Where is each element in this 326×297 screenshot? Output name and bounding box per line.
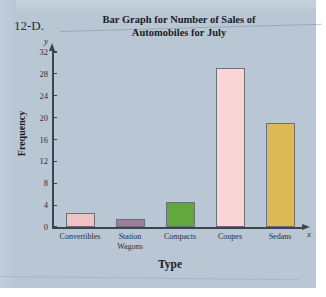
category-label-line: Compacts bbox=[153, 232, 207, 242]
y-tick-mark bbox=[52, 205, 57, 206]
y-tick-label: 24 bbox=[26, 91, 48, 101]
bar bbox=[266, 123, 295, 227]
y-axis-variable-label: y bbox=[44, 36, 48, 46]
y-tick-mark bbox=[52, 51, 57, 52]
category-label-line: Station bbox=[103, 232, 157, 242]
y-tick-label: 8 bbox=[26, 178, 48, 188]
y-axis-title: Frequency bbox=[16, 94, 27, 174]
y-tick-label: 12 bbox=[26, 156, 48, 166]
bar bbox=[116, 219, 145, 227]
category-label: Convertibles bbox=[53, 232, 107, 242]
x-axis-variable-label: x bbox=[307, 229, 311, 239]
category-label-line: Sedans bbox=[253, 232, 307, 242]
y-tick-label: 32 bbox=[26, 47, 48, 57]
y-tick-mark bbox=[52, 139, 57, 140]
category-label: Compacts bbox=[153, 232, 207, 242]
y-tick-label: 0 bbox=[26, 222, 48, 232]
category-label: Sedans bbox=[253, 232, 307, 242]
x-axis-line bbox=[52, 227, 304, 229]
category-label: StationWagons bbox=[103, 232, 157, 251]
bar bbox=[66, 213, 95, 227]
bar bbox=[216, 68, 245, 227]
category-label-line: Convertibles bbox=[53, 232, 107, 242]
y-axis-arrow-icon bbox=[49, 43, 55, 51]
y-tick-label: 16 bbox=[26, 135, 48, 145]
y-tick-mark bbox=[52, 161, 57, 162]
category-label: Coupes bbox=[203, 232, 257, 242]
y-tick-mark bbox=[52, 73, 57, 74]
x-axis-title: Type bbox=[110, 258, 230, 270]
y-tick-label: 28 bbox=[26, 69, 48, 79]
category-label-line: Wagons bbox=[103, 242, 157, 252]
bar bbox=[166, 202, 195, 227]
y-tick-mark bbox=[52, 95, 57, 96]
y-tick-label: 4 bbox=[26, 200, 48, 210]
category-label-line: Coupes bbox=[203, 232, 257, 242]
y-tick-mark bbox=[52, 183, 57, 184]
y-tick-mark bbox=[52, 226, 57, 227]
bar-chart-plot: y x 048121620242832 Frequency Type Conve… bbox=[0, 0, 326, 297]
scanned-page: 12-D. Bar Graph for Number of Sales of A… bbox=[0, 0, 326, 297]
y-tick-label: 20 bbox=[26, 113, 48, 123]
y-tick-mark bbox=[52, 117, 57, 118]
